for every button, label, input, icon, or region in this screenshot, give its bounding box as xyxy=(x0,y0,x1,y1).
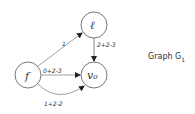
edge-f-to-l: 1 xyxy=(38,33,82,66)
edge-label-f-v0: 0+2-3 xyxy=(43,67,62,74)
edge-f-to-v0-curved: 1+2-2 xyxy=(38,84,84,107)
edge-f-to-v0-straight: 0+2-3 xyxy=(41,67,80,75)
node-v0: v₀ xyxy=(81,62,107,88)
graph-caption: Graph G1 xyxy=(148,52,185,63)
node-l: ℓ xyxy=(81,12,107,38)
edge-label-f-l: 1 xyxy=(62,40,66,47)
caption-subscript: 1 xyxy=(181,56,185,63)
node-label-v0: v₀ xyxy=(87,69,98,82)
node-f: f xyxy=(15,62,41,88)
edge-label-l-v0: 2+2-3 xyxy=(97,41,116,48)
caption-text: Graph G xyxy=(148,52,181,61)
edge-l-to-v0: 2+2-3 xyxy=(94,38,116,61)
edge-label-f-v0-curved: 1+2-2 xyxy=(44,100,63,107)
node-label-l: ℓ xyxy=(90,19,95,32)
